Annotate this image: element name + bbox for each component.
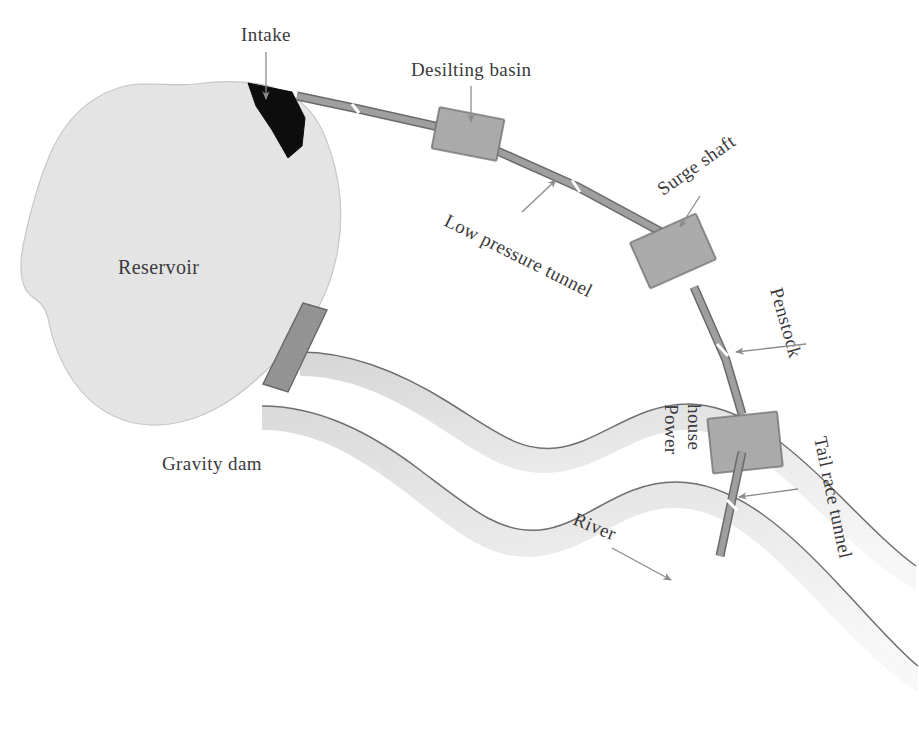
low-pressure-tunnel-arrow bbox=[522, 180, 556, 212]
penstock-label: Penstock bbox=[766, 285, 806, 360]
reservoir-label: Reservoir bbox=[118, 256, 199, 278]
intake-label: Intake bbox=[241, 24, 291, 45]
river-flow-arrow bbox=[612, 548, 671, 580]
power-house-label-line2: house bbox=[684, 404, 705, 450]
low-pressure-tunnel-label: Low pressure tunnel bbox=[441, 210, 596, 301]
surge-shaft-label: Surge shaft bbox=[653, 130, 739, 199]
gravity-dam-label: Gravity dam bbox=[162, 453, 262, 474]
desilting-basin-label: Desilting basin bbox=[411, 59, 532, 80]
power-house-label-line1: Power bbox=[661, 404, 682, 455]
desilting-basin-group: Desilting basin bbox=[411, 59, 532, 161]
tunnel-segment-intake-to-basin-core bbox=[297, 96, 448, 129]
penstock-group: Penstock bbox=[694, 285, 806, 414]
surge-shaft-group: Surge shaft bbox=[630, 130, 739, 288]
scheme-canvas: Reservoir Gravity dam Low pressure tunne… bbox=[0, 0, 919, 747]
power-house-shape bbox=[707, 411, 782, 473]
desilting-basin-shape bbox=[432, 107, 505, 161]
tail-race-tunnel-arrow bbox=[739, 489, 798, 497]
hydropower-scheme-diagram: Reservoir Gravity dam Low pressure tunne… bbox=[0, 0, 919, 747]
